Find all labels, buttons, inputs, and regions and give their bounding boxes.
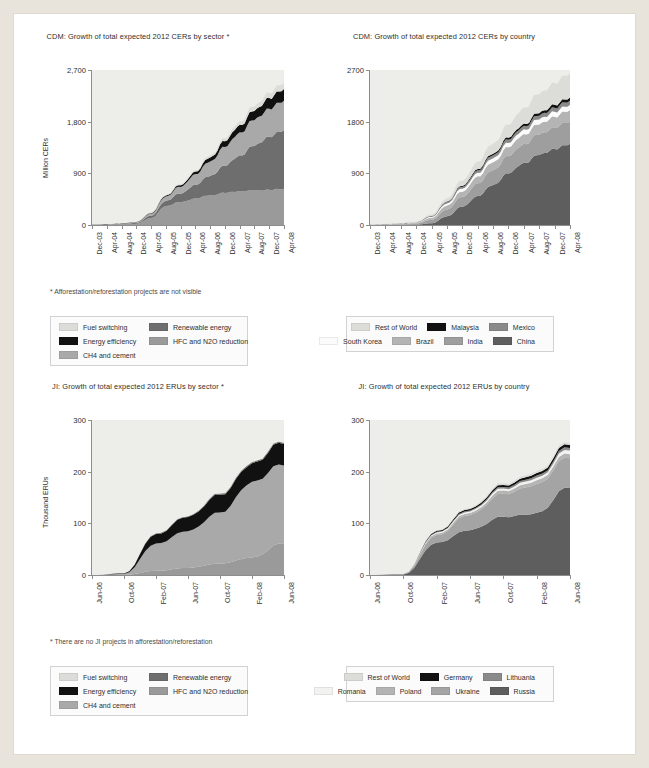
x-tick-label: Dec-06: [512, 232, 519, 276]
chart-note: * There are no JI projects in afforestat…: [50, 638, 212, 645]
legend-item[interactable]: Fuel switching: [59, 323, 149, 331]
x-tick-mark: [92, 226, 93, 229]
x-tick-mark: [401, 226, 402, 229]
x-tick-mark: [254, 226, 255, 229]
chart-title: CDM: Growth of total expected 2012 CERs …: [326, 32, 562, 41]
chart-panel-cdm-country: CDM: Growth of total expected 2012 CERs …: [326, 24, 562, 368]
legend-item[interactable]: Renewable energy: [149, 323, 239, 331]
y-tick-label: 900: [50, 169, 86, 178]
x-tick-label: Aug-06: [214, 232, 221, 276]
legend-item[interactable]: Fuel switching: [59, 673, 149, 681]
x-tick-mark: [136, 226, 137, 229]
legend-item[interactable]: Mexico: [489, 323, 535, 331]
y-tick-mark: [88, 420, 92, 421]
legend-item[interactable]: Lithuania: [483, 673, 535, 681]
x-tick-mark: [220, 576, 221, 579]
legend-swatch: [493, 337, 512, 345]
chart-legend: Fuel switchingRenewable energyEnergy eff…: [50, 666, 248, 716]
x-tick-mark: [107, 226, 108, 229]
x-tick-mark: [432, 226, 433, 229]
stacked-area-plot: [92, 420, 284, 575]
x-tick-mark: [385, 226, 386, 229]
y-tick-mark: [366, 122, 370, 123]
y-tick-label: 100: [50, 519, 86, 528]
y-tick-label: 0: [328, 571, 364, 580]
legend-label: Fuel switching: [83, 674, 127, 681]
legend-item[interactable]: Energy efficiency: [59, 687, 149, 695]
x-tick-label: Apr-08: [574, 232, 581, 276]
legend-item[interactable]: Renewable energy: [149, 673, 239, 681]
chart-title: CDM: Growth of total expected 2012 CERs …: [20, 32, 256, 41]
legend-swatch: [376, 687, 395, 695]
chart-panel-ji-country: JI: Growth of total expected 2012 ERUs b…: [326, 374, 562, 718]
y-axis-line: [369, 420, 370, 576]
legend-item[interactable]: Germany: [420, 673, 473, 681]
x-tick-label: Apr-06: [482, 232, 489, 276]
legend-item[interactable]: Brazil: [392, 337, 434, 345]
legend-row: Fuel switchingRenewable energy: [59, 673, 239, 681]
legend-item[interactable]: South Korea: [319, 337, 382, 345]
legend-label: CH4 and cement: [83, 702, 136, 709]
legend-item[interactable]: Romania: [314, 687, 366, 695]
y-tick-label: 2,700: [50, 66, 86, 75]
stacked-area-plot: [370, 70, 570, 225]
legend-label: Rest of World: [368, 674, 410, 681]
legend-swatch: [59, 701, 78, 709]
legend-item[interactable]: Rest of World: [344, 673, 410, 681]
plot-area: [92, 70, 284, 225]
legend-label: Germany: [444, 674, 473, 681]
legend-item[interactable]: Russia: [490, 687, 535, 695]
x-tick-mark: [537, 576, 538, 579]
x-tick-mark: [462, 226, 463, 229]
legend-swatch: [344, 673, 363, 681]
legend-item[interactable]: CH4 and cement: [59, 701, 149, 709]
legend-label: China: [517, 338, 535, 345]
x-tick-mark: [403, 576, 404, 579]
legend-swatch: [351, 323, 370, 331]
legend-label: Poland: [400, 688, 422, 695]
x-tick-label: Dec-03: [96, 232, 103, 276]
legend-item[interactable]: China: [493, 337, 535, 345]
x-tick-mark: [156, 576, 157, 579]
legend-item[interactable]: Malaysia: [427, 323, 479, 331]
y-tick-label: 900: [328, 169, 364, 178]
legend-item[interactable]: HFC and N2O reduction: [149, 687, 239, 695]
x-tick-label: Aug-06: [497, 232, 504, 276]
legend-item[interactable]: Energy efficiency: [59, 337, 149, 345]
legend-item[interactable]: Poland: [376, 687, 422, 695]
x-tick-mark: [503, 576, 504, 579]
x-tick-mark: [570, 576, 571, 579]
legend-item[interactable]: India: [444, 337, 483, 345]
y-tick-mark: [366, 523, 370, 524]
legend-label: Malaysia: [451, 324, 479, 331]
x-tick-mark: [92, 576, 93, 579]
y-tick-mark: [88, 523, 92, 524]
y-tick-label: 0: [328, 221, 364, 230]
x-tick-mark: [416, 226, 417, 229]
legend-item[interactable]: Rest of World: [351, 323, 417, 331]
x-tick-mark: [240, 226, 241, 229]
x-tick-mark: [252, 576, 253, 579]
x-tick-label: Apr-06: [199, 232, 206, 276]
figure-page: CDM: Growth of total expected 2012 CERs …: [14, 14, 635, 754]
plot-area: [92, 420, 284, 575]
legend-item[interactable]: Ukraine: [431, 687, 479, 695]
legend-label: HFC and N2O reduction: [173, 338, 248, 345]
legend-label: India: [468, 338, 483, 345]
legend-item[interactable]: CH4 and cement: [59, 351, 149, 359]
y-axis-line: [91, 420, 92, 576]
legend-label: Energy efficiency: [83, 338, 136, 345]
chart-note: * Afforestation/reforestation projects a…: [50, 288, 201, 295]
y-axis-label: Thousand ERUs: [42, 476, 49, 527]
legend-label: Lithuania: [507, 674, 535, 681]
plot-area: [370, 70, 570, 225]
x-tick-label: Apr-08: [288, 232, 295, 276]
legend-row: RomaniaPolandUkraineRussia: [355, 687, 545, 695]
x-tick-mark: [493, 226, 494, 229]
legend-item[interactable]: HFC and N2O reduction: [149, 337, 239, 345]
y-tick-mark: [88, 70, 92, 71]
legend-swatch: [149, 673, 168, 681]
legend-swatch: [420, 673, 439, 681]
x-tick-mark: [210, 226, 211, 229]
x-tick-mark: [478, 226, 479, 229]
